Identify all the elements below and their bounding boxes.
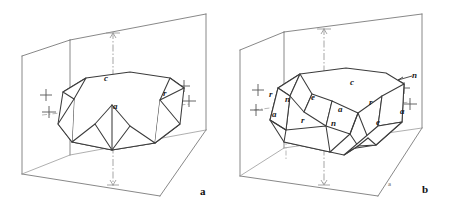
face-label-e-b-lower: e — [376, 118, 380, 127]
panel-caption-a: a — [200, 186, 206, 197]
face-label-e-b-left: e — [311, 93, 315, 102]
face-label-a-b-center: a — [338, 105, 343, 114]
face-label-r-b-right: r — [369, 98, 373, 107]
face-label-n-b-pointer: n — [412, 71, 417, 80]
crystal-morphology-figure: c r a a — [0, 0, 452, 213]
face-label-r-b-lower: r — [301, 116, 305, 125]
face-label-n-b-left: n — [285, 95, 290, 104]
crystal-b — [270, 68, 404, 155]
face-label-c-b: c — [350, 78, 354, 87]
face-label-r-b-left: r — [269, 90, 273, 99]
face-label-a-a: a — [113, 102, 118, 111]
faint-axis-tick-label-b: a — [388, 181, 391, 187]
crystal-a — [58, 72, 184, 150]
face-label-a-b-lowerleft: a — [272, 110, 277, 119]
panel-caption-b: b — [422, 184, 428, 195]
panel-a: c r a a — [0, 0, 226, 213]
face-label-c-a: c — [104, 74, 108, 83]
face-label-a-b-right: a — [400, 107, 405, 116]
face-label-r-a: r — [163, 89, 167, 98]
face-label-n-b-lower: n — [331, 119, 336, 128]
panel-b: c n r n e r a a a r n e a b — [226, 0, 452, 213]
